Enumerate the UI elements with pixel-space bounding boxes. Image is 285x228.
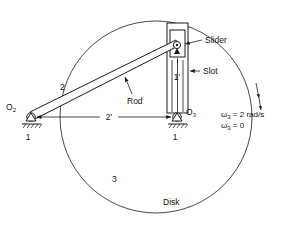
label-rod: Rod: [127, 96, 143, 106]
pivot-o3: [168, 113, 188, 128]
label-link-rod-number: 2: [60, 82, 65, 92]
label-pivot-o3: O3: [186, 107, 197, 118]
mechanism-figure: O2 O3 1 1 2 3 2' 1' Slider Slot Rod Disk…: [0, 0, 285, 228]
label-ground-right: 1: [173, 132, 178, 142]
rod-link: [30, 40, 178, 120]
mechanism-drawing: O2 O3 1 1 2 3 2' 1' Slider Slot Rod Disk…: [0, 0, 285, 228]
slider-pin-center: [176, 44, 178, 46]
label-dimension-vertical: 1': [174, 72, 181, 82]
label-slider: Slider: [205, 35, 227, 45]
label-pivot-o2: O2: [6, 102, 17, 113]
annotation-omega-dot: ω̇3 = 0: [221, 121, 245, 131]
label-slot: Slot: [203, 66, 218, 76]
rotation-direction-arrow: [256, 83, 261, 110]
label-dimension-horizontal: 2': [106, 112, 113, 122]
label-disk: Disk: [163, 197, 180, 207]
label-ground-left: 1: [26, 132, 31, 142]
leader-rod: [125, 77, 132, 94]
label-link-disk-number: 3: [112, 174, 117, 184]
annotation-omega: ω3 = 2 rad/s: [221, 110, 264, 120]
